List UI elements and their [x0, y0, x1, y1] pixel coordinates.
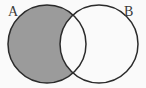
set-a-label: A — [8, 5, 18, 19]
venn-diagram-figure: A B — [0, 0, 146, 88]
set-b-label: B — [124, 5, 133, 19]
